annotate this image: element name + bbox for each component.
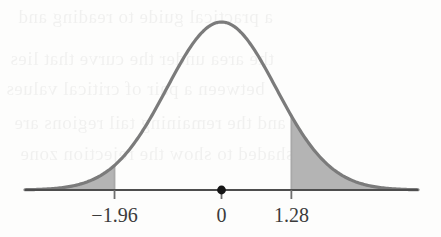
shaded-tails: [25, 116, 418, 190]
bell-curve-path: [25, 22, 418, 190]
right-tail-shaded-region: [291, 116, 418, 190]
tick-label-center: 0: [217, 205, 227, 225]
tick-label-left-critical: −1.96: [91, 205, 137, 225]
center-point-dot: [217, 186, 226, 195]
tick-label-right-critical: 1.28: [274, 205, 309, 225]
distribution-chart: [0, 0, 441, 237]
axis-tick-marks: [115, 190, 292, 199]
boundary-lines: [115, 116, 292, 190]
normal-curve-figure: a practical guide to reading andthe area…: [0, 0, 441, 237]
